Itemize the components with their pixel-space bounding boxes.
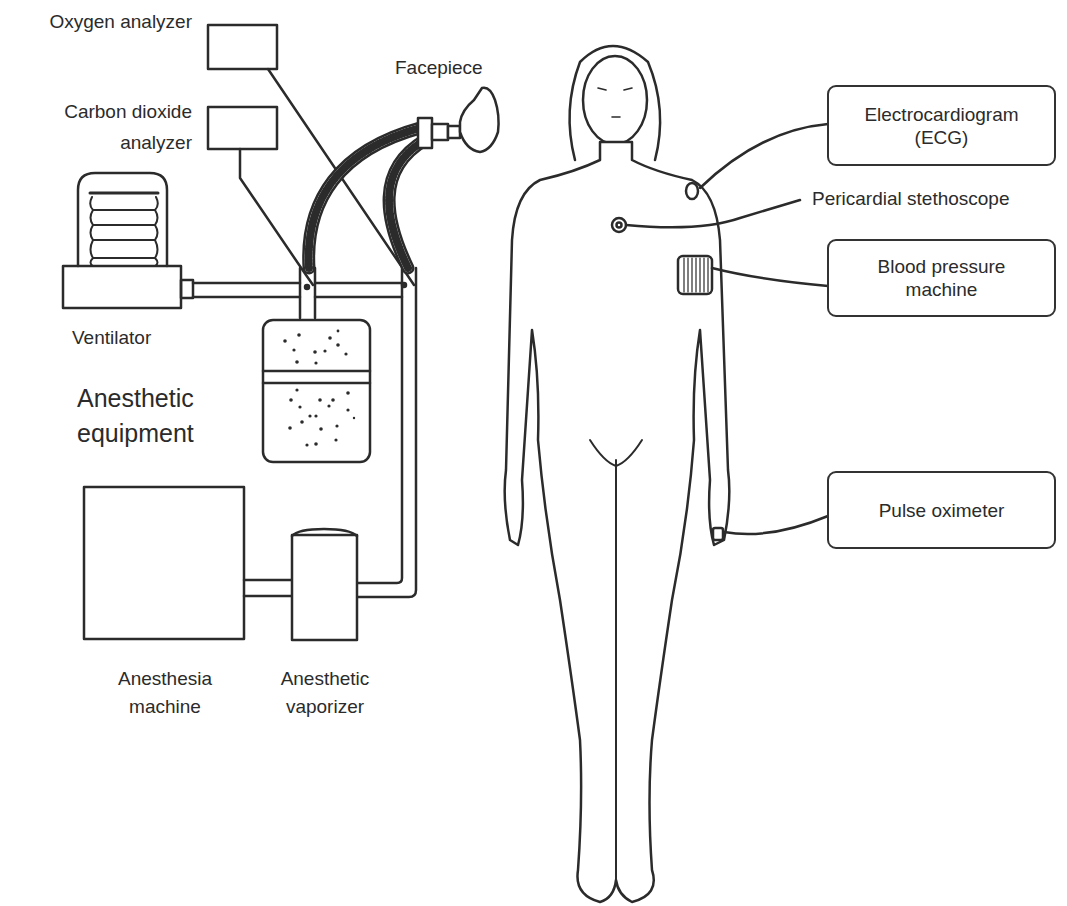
ecg-label-line2: (ECG) [864,126,1018,149]
pulse-oximeter-lead [724,516,828,534]
anesthesia-monitoring-diagram: Oxygen analyzer Carbon dioxide analyzer … [0,0,1067,906]
vaporizer-label-line1: Anesthetic [255,667,395,690]
bp-label-line1: Blood pressure [878,255,1006,278]
breathing-tubes-icon [309,118,460,268]
ecg-monitor-box: Electrocardiogram (ECG) [827,85,1056,166]
co2-analyzer-label-line2: analyzer [4,131,192,154]
co2-sample-line [240,149,313,285]
vaporizer-icon [292,529,357,640]
vaporizer-label-line2: vaporizer [255,695,395,718]
equipment-group-label-line2: equipment [77,418,194,449]
facepiece-label: Facepiece [395,56,483,79]
patient-figure [505,46,730,902]
bp-cuff-icon [678,256,712,294]
pulse-oximeter-box: Pulse oximeter [827,471,1056,549]
ventilator-label: Ventilator [72,326,151,349]
oxygen-analyzer-box [208,25,277,69]
ecg-electrode-icon [686,183,698,199]
facepiece-icon [460,88,499,152]
bp-lead [712,268,828,286]
ecg-lead [700,124,828,188]
absorber-canister-icon [263,320,370,462]
bp-machine-box: Blood pressure machine [827,239,1056,317]
anesthesia-machine-label-line1: Anesthesia [95,667,235,690]
stethoscope-disc-icon [612,218,626,232]
co2-analyzer-box [208,107,277,149]
pulse-oximeter-clip-icon [713,528,723,540]
anesthesia-machine-box [84,487,244,639]
pulse-oximeter-label: Pulse oximeter [879,499,1005,522]
co2-analyzer-label-line1: Carbon dioxide [4,100,192,123]
equipment-group-label-line1: Anesthetic [77,383,194,414]
oxygen-analyzer-label: Oxygen analyzer [4,10,192,33]
ecg-label-line1: Electrocardiogram [864,103,1018,126]
anesthesia-machine-label-line2: machine [95,695,235,718]
bp-label-line2: machine [878,278,1006,301]
stethoscope-label: Pericardial stethoscope [812,187,1010,210]
ventilator-icon [63,173,193,308]
